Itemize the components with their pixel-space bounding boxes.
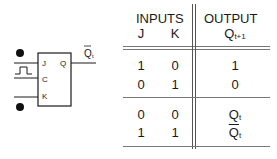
col-q-sub: t+1	[234, 32, 245, 41]
header-rule-bottom	[123, 49, 270, 50]
cell-q-main: Q	[229, 125, 239, 140]
k-high-dot-icon	[16, 103, 24, 111]
col-q-header: Qt+1	[215, 27, 255, 44]
col-j-header: J	[131, 27, 151, 41]
cell-q-sub: t	[239, 131, 241, 140]
col-q-main: Q	[224, 26, 234, 41]
cell-j: 1	[131, 126, 151, 140]
cell-q: 1	[215, 59, 255, 73]
pin-k-label: K	[42, 92, 48, 101]
column-divider-right	[195, 4, 196, 149]
output-header: OUTPUT	[204, 12, 257, 26]
cell-q: Qt	[215, 108, 255, 125]
output-label-sub: t	[92, 53, 94, 59]
cell-q-sub: t	[239, 113, 241, 122]
cell-q: 0	[215, 78, 255, 92]
cell-k: 1	[165, 126, 185, 140]
col-k-header: K	[165, 27, 185, 41]
pin-j-label: J	[42, 59, 46, 68]
pin-q-label: Q	[60, 59, 66, 68]
cell-k: 0	[165, 108, 185, 122]
column-divider-left	[192, 4, 193, 149]
pin-c-label: C	[42, 75, 48, 84]
inputs-header: INPUTS	[136, 12, 184, 26]
cell-j: 1	[131, 59, 151, 73]
cell-q-main: Q	[229, 107, 239, 122]
cell-k: 1	[165, 78, 185, 92]
clock-pulse-icon	[15, 67, 32, 74]
group-divider	[123, 97, 270, 98]
j-high-dot-icon	[16, 49, 24, 57]
output-label: Q	[84, 48, 92, 59]
table-bottom-rule	[123, 146, 270, 147]
jk-flip-flop-diagram: J C K Q Q t	[0, 0, 125, 159]
cell-j: 0	[131, 78, 151, 92]
cell-j: 0	[131, 108, 151, 122]
cell-q: Qt	[215, 126, 255, 143]
cell-k: 0	[165, 59, 185, 73]
header-rule-top	[123, 46, 270, 47]
